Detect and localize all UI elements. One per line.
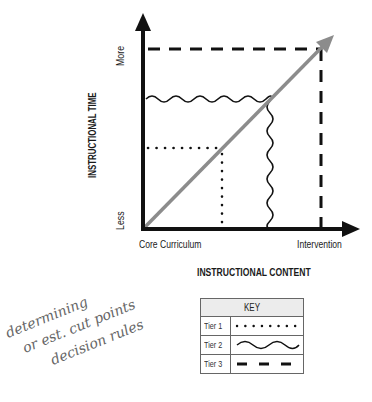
key-title: KEY (201, 299, 303, 317)
handwritten-note: determining or est. cut points decision … (3, 293, 146, 367)
key-row-tier3: Tier 3 (201, 355, 303, 373)
y-low-label: Less (114, 211, 126, 230)
legend-key: KEY Tier 1 Tier 2 Tier 3 (200, 298, 304, 374)
dashed-line-icon (231, 355, 303, 373)
trend-arrow (145, 35, 334, 227)
x-axis-arrowhead (342, 221, 360, 237)
x-axis-title: INSTRUCTIONAL CONTENT (197, 266, 311, 278)
x-low-label: Core Curriculum (139, 238, 201, 250)
key-row-tier2: Tier 2 (201, 336, 303, 355)
diagram-canvas: determining or est. cut points decision … (0, 0, 372, 402)
key-row-tier1: Tier 1 (201, 317, 303, 336)
y-axis-title: INSTRUCTIONAL TIME (86, 92, 98, 178)
dotted-line-icon (231, 317, 303, 335)
y-axis-arrowhead (135, 13, 151, 31)
wavy-line-icon (231, 336, 303, 354)
x-high-label: Intervention (297, 238, 342, 250)
y-high-label: More (114, 46, 126, 66)
